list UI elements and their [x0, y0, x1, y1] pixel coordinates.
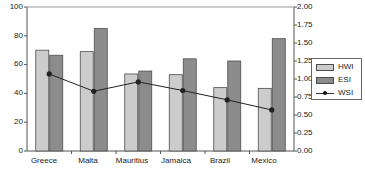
axes-group — [27, 7, 294, 151]
bar-hwi-greece — [36, 50, 49, 151]
legend-item-esi: ESI — [316, 76, 351, 84]
bar-hwi-malta — [80, 52, 93, 151]
wsi-marker-malta — [91, 89, 96, 94]
legend-item-hwi: HWI — [316, 63, 354, 71]
legend-item-wsi: WSI — [316, 89, 353, 97]
bar-hwi-mexico — [258, 88, 271, 151]
bar-hwi-mauritius — [125, 74, 138, 151]
bars-group — [36, 29, 286, 151]
bar-esi-brazil — [228, 61, 241, 151]
bar-hwi-jamaica — [169, 75, 182, 151]
wsi-marker-brazil — [225, 97, 230, 102]
legend: HWI ESI WSI — [311, 58, 362, 100]
wsi-marker-jamaica — [180, 88, 185, 93]
wsi-marker-greece — [47, 71, 52, 76]
legend-label-hwi: HWI — [338, 63, 354, 71]
wsi-marker-mauritius — [136, 79, 141, 84]
legend-swatch-esi-icon — [316, 77, 334, 84]
legend-line-marker-wsi-icon — [316, 90, 334, 97]
legend-swatch-hwi-icon — [316, 64, 334, 71]
bar-esi-greece — [50, 55, 63, 151]
legend-label-esi: ESI — [338, 76, 351, 84]
chart-container: 100 80 60 40 20 0 2.00 1.75 1.50 1.25 1.… — [0, 0, 365, 171]
x-axis-category-label: Mexico — [236, 156, 292, 165]
bar-esi-jamaica — [183, 59, 196, 151]
bar-esi-mexico — [272, 39, 285, 151]
wsi-marker-mexico — [269, 107, 274, 112]
legend-label-wsi: WSI — [338, 89, 353, 97]
